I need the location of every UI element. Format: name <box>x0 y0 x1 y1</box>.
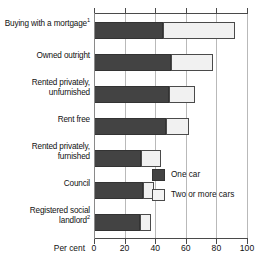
category-label: Council <box>2 179 90 189</box>
bar-segment-two-or-more <box>166 118 189 135</box>
axis-tick-top <box>216 8 217 13</box>
footnote-marker: 2 <box>87 214 90 220</box>
category-label-line: landlord2 <box>2 216 90 226</box>
xtick-label: 20 <box>120 243 130 253</box>
category-label-line: Rent free <box>58 115 90 124</box>
category-label-line: Registered social <box>2 206 90 216</box>
category-label: Registered social landlord2 <box>2 206 90 225</box>
category-label-line: Rented privately, <box>2 142 90 152</box>
xtick-label: 0 <box>92 243 97 253</box>
bar-segment-two-or-more <box>140 214 151 231</box>
legend-label: One car <box>171 169 200 181</box>
axis-tick-top <box>94 8 95 13</box>
axis-tick-top <box>125 8 126 13</box>
category-label-line: Owned outright <box>37 51 90 60</box>
stacked-bar-chart: 0 20 40 60 80 100 Per cent Buying with a… <box>0 0 257 266</box>
bar-segment-two-or-more <box>171 54 214 71</box>
category-label-line: unfurnished <box>2 88 90 98</box>
bar-segment-one-car <box>94 22 163 39</box>
bar-segment-two-or-more <box>141 150 161 167</box>
axis-line-bottom <box>94 238 248 239</box>
category-label: Buying with a mortgage1 <box>2 19 90 29</box>
axis-line-left <box>94 13 95 239</box>
legend-label: Two or more cars <box>171 189 234 201</box>
gridline-80 <box>216 14 217 238</box>
bar-segment-one-car <box>94 118 166 135</box>
plot-area <box>94 14 247 238</box>
axis-tick-top <box>186 8 187 13</box>
category-label-line: Rented privately, <box>2 78 90 88</box>
category-label: Rented privately, furnished <box>2 142 90 161</box>
xtick-label: 80 <box>212 243 222 253</box>
bar-segment-two-or-more <box>163 22 235 39</box>
xtick-label: 60 <box>181 243 191 253</box>
xtick-label: 100 <box>240 243 254 253</box>
category-label: Rented privately, unfurnished <box>2 78 90 97</box>
gridline-100 <box>247 14 248 238</box>
category-labels: Buying with a mortgage1 Owned outright R… <box>0 0 90 266</box>
bar-segment-one-car <box>94 86 169 103</box>
legend-swatch-icon <box>152 189 165 201</box>
bar-segment-one-car <box>94 214 140 231</box>
legend-swatch-icon <box>152 169 165 181</box>
footnote-marker: 1 <box>87 17 90 23</box>
category-label: Owned outright <box>2 51 90 61</box>
bar-segment-one-car <box>94 182 143 199</box>
axis-tick-top <box>155 8 156 13</box>
category-label: Rent free <box>2 115 90 125</box>
axis-line-top <box>94 13 248 14</box>
bar-segment-two-or-more <box>169 86 195 103</box>
category-label-line: Buying with a mortgage <box>5 19 87 28</box>
bar-segment-one-car <box>94 54 171 71</box>
bar-segment-one-car <box>94 150 141 167</box>
category-label-line: Council <box>64 179 90 188</box>
category-label-line: furnished <box>2 152 90 162</box>
axis-tick-top <box>247 8 248 13</box>
category-label-text: landlord <box>59 216 87 225</box>
xtick-label: 40 <box>150 243 160 253</box>
